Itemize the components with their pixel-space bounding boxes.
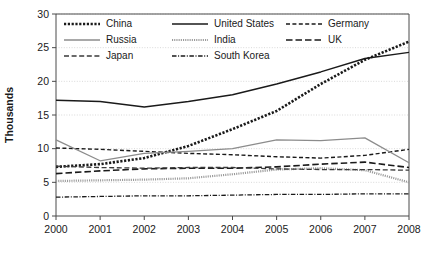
y-tick-label-25: 25: [37, 41, 49, 53]
legend-label-china: China: [106, 18, 133, 29]
data-series-group: [56, 42, 409, 198]
legend-label-germany: Germany: [328, 18, 369, 29]
y-tick-label-0: 0: [43, 210, 49, 222]
y-tick-label-20: 20: [37, 75, 49, 87]
x-axis-ticks: 200020012002200320042005200620072008: [44, 216, 421, 235]
series-line-south-korea: [56, 194, 409, 197]
legend-label-united-states: United States: [214, 18, 274, 29]
x-tick-label-2007: 2007: [353, 223, 377, 235]
legend-label-south-korea: South Korea: [214, 50, 270, 61]
line-chart-figure: 051015202530 200020012002200320042005200…: [0, 0, 432, 253]
x-tick-label-2004: 2004: [221, 223, 245, 235]
legend-label-japan: Japan: [106, 50, 133, 61]
y-axis-title: Thousands: [3, 87, 15, 143]
x-tick-label-2006: 2006: [309, 223, 333, 235]
legend-label-india: India: [214, 34, 236, 45]
legend-label-russia: Russia: [106, 34, 137, 45]
y-tick-label-30: 30: [37, 8, 49, 20]
y-tick-label-10: 10: [37, 142, 49, 154]
legend-label-uk: UK: [328, 34, 342, 45]
x-tick-label-2008: 2008: [397, 223, 421, 235]
x-tick-label-2003: 2003: [177, 223, 201, 235]
y-axis-ticks: 051015202530: [37, 8, 56, 222]
series-line-germany: [56, 148, 409, 158]
x-tick-label-2000: 2000: [44, 223, 68, 235]
chart-canvas: 051015202530 200020012002200320042005200…: [0, 0, 432, 253]
x-tick-label-2002: 2002: [133, 223, 157, 235]
y-tick-label-5: 5: [43, 176, 49, 188]
x-tick-label-2001: 2001: [88, 223, 112, 235]
y-tick-label-15: 15: [37, 109, 49, 121]
x-tick-label-2005: 2005: [265, 223, 289, 235]
chart-legend: ChinaUnited StatesGermanyRussiaIndiaUKJa…: [64, 18, 369, 61]
